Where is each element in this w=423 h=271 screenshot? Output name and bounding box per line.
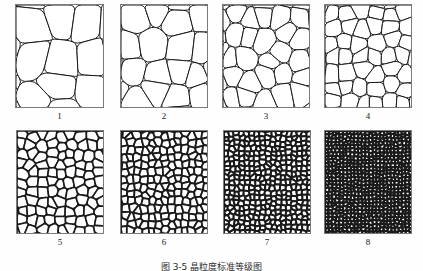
grain-cell <box>367 82 386 97</box>
panel-row-top: 1234 <box>0 4 423 124</box>
grain-cell <box>306 231 311 234</box>
grain-cell <box>369 96 382 108</box>
grain-cell <box>224 230 229 234</box>
grain-panel-1: 1 <box>15 4 104 122</box>
grain-cell <box>71 5 101 43</box>
figure-caption: 图 3-5 晶粒度标准等级图 <box>0 262 423 271</box>
grain-cell <box>202 228 208 234</box>
grain-cell <box>174 182 182 189</box>
grain-structure-7 <box>224 131 311 234</box>
grain-cell <box>325 64 339 84</box>
grain-cell <box>77 38 104 76</box>
grain-cell <box>29 233 36 234</box>
grain-cell <box>155 233 162 234</box>
grain-cell <box>382 93 397 108</box>
grain-panel-frame-5 <box>16 130 104 234</box>
grain-panel-label-5: 5 <box>16 236 104 248</box>
grain-panel-label-2: 2 <box>120 110 208 122</box>
grain-structure-1 <box>16 5 104 108</box>
grain-cell <box>339 48 353 64</box>
grain-structure-8 <box>325 131 412 234</box>
grain-panel-label-3: 3 <box>222 110 310 122</box>
grain-cell <box>168 5 191 10</box>
grain-cell <box>74 205 84 216</box>
grain-cell <box>49 99 80 108</box>
grain-cell <box>168 229 176 234</box>
grain-cell <box>207 152 208 159</box>
grain-panel-7: 7 <box>223 130 311 248</box>
grain-cell <box>327 107 341 108</box>
grain-panel-5: 5 <box>16 130 104 248</box>
grain-cell <box>133 227 142 234</box>
grain-cell <box>75 75 104 108</box>
grain-cell <box>325 93 341 108</box>
grain-cell <box>409 95 412 108</box>
grain-panel-frame-2 <box>120 4 208 108</box>
grain-panel-6: 6 <box>120 130 208 248</box>
grain-structure-4 <box>325 5 412 108</box>
grain-cell <box>74 227 85 234</box>
grain-cell <box>139 27 168 62</box>
grain-panel-frame-3 <box>222 4 310 108</box>
grain-panel-frame-7 <box>223 130 311 234</box>
grain-panel-label-1: 1 <box>15 110 104 122</box>
grain-panel-8: 8 <box>324 130 412 248</box>
grain-cell <box>175 227 182 234</box>
grain-cell <box>189 83 208 108</box>
grain-panel-label-4: 4 <box>324 110 412 122</box>
grain-cell <box>207 79 208 88</box>
grain-cell <box>57 233 66 234</box>
panel-row-bottom: 5678 <box>0 130 423 250</box>
grain-cell <box>411 66 412 71</box>
grain-cell <box>26 176 38 186</box>
grain-panel-frame-1 <box>15 4 104 108</box>
grain-panel-4: 4 <box>324 4 412 122</box>
grain-structure-6 <box>121 131 208 234</box>
grain-panel-2: 2 <box>120 4 208 122</box>
grain-cell <box>410 231 412 234</box>
grain-cell <box>202 145 208 154</box>
grain-panel-label-6: 6 <box>120 236 208 248</box>
grain-cell <box>309 82 310 89</box>
grain-cell <box>94 233 101 234</box>
grain-panel-frame-6 <box>120 130 208 234</box>
grain-size-figure: 1234 5678 图 3-5 晶粒度标准等级图 <box>0 0 423 271</box>
grain-panel-frame-8 <box>324 130 412 234</box>
grain-cell <box>97 138 104 150</box>
grain-structure-3 <box>223 5 310 108</box>
grain-cell <box>162 233 168 234</box>
grain-panel-label-8: 8 <box>324 236 412 248</box>
grain-structure-5 <box>17 131 104 234</box>
grain-cell <box>95 216 104 226</box>
grain-cell <box>341 93 359 108</box>
grain-structure-2 <box>121 5 208 108</box>
grain-cell <box>121 30 141 59</box>
grain-cell <box>337 33 352 49</box>
grain-cell <box>174 160 182 169</box>
grain-cell <box>192 32 208 64</box>
grain-panel-3: 3 <box>222 4 310 122</box>
grain-panel-frame-4 <box>324 4 412 108</box>
grain-panel-label-7: 7 <box>223 236 311 248</box>
grain-cell <box>45 39 78 76</box>
grain-cell <box>174 168 182 175</box>
grain-cell <box>103 39 104 51</box>
grain-cell <box>38 187 49 198</box>
grain-cell <box>239 107 254 108</box>
grain-cell <box>66 149 75 158</box>
